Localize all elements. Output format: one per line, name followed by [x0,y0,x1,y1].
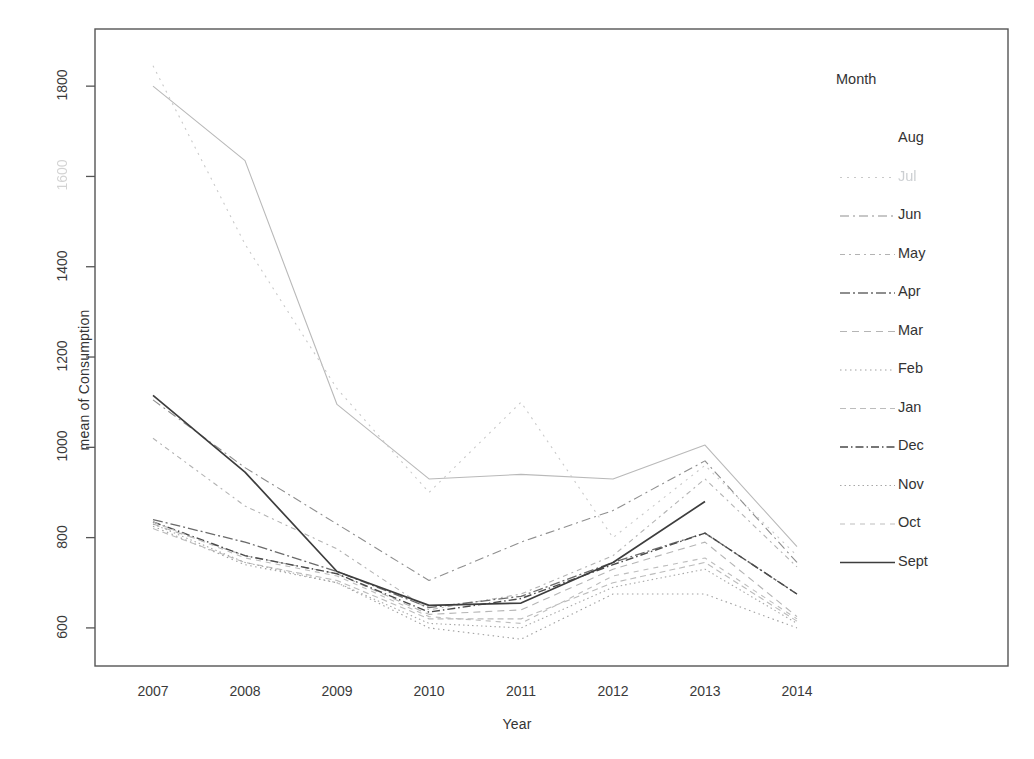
legend-item-jan[interactable]: Jan [898,399,921,415]
x-tick-label: 2014 [771,683,823,699]
legend-item-oct[interactable]: Oct [898,514,921,530]
legend-item-may[interactable]: May [898,245,925,261]
legend-title: Month [836,71,876,87]
y-axis-title: mean of Consumption [76,309,92,450]
interaction-plot-figure: mean of Consumption Year Month 600800100… [0,0,1034,759]
x-tick-label: 2007 [127,683,179,699]
legend-item-aug[interactable]: Aug [898,129,924,145]
canvas-background [0,0,1034,759]
y-tick-label: 1000 [54,424,70,468]
y-tick-label: 600 [54,605,70,649]
y-tick-label: 1400 [54,244,70,288]
x-tick-label: 2009 [311,683,363,699]
plot-canvas [0,0,1034,759]
legend-item-dec[interactable]: Dec [898,437,924,453]
legend-item-jul[interactable]: Jul [898,168,917,184]
legend-item-mar[interactable]: Mar [898,322,923,338]
x-tick-label: 2010 [403,683,455,699]
x-tick-label: 2008 [219,683,271,699]
y-tick-label: 1800 [54,63,70,107]
y-tick-label: 1600 [54,153,70,197]
legend-item-apr[interactable]: Apr [898,283,921,299]
legend-item-sept[interactable]: Sept [898,553,928,569]
legend-item-nov[interactable]: Nov [898,476,924,492]
x-tick-label: 2012 [587,683,639,699]
legend-item-feb[interactable]: Feb [898,360,923,376]
x-axis-title: Year [0,716,1034,732]
y-tick-label: 1200 [54,334,70,378]
x-tick-label: 2011 [495,683,547,699]
legend-item-jun[interactable]: Jun [898,206,921,222]
y-tick-label: 800 [54,515,70,559]
x-tick-label: 2013 [679,683,731,699]
